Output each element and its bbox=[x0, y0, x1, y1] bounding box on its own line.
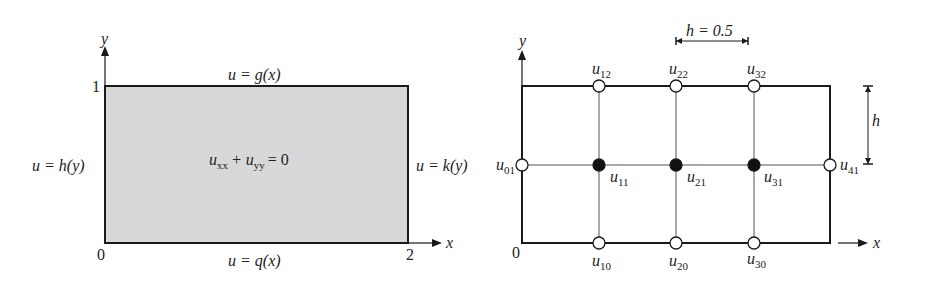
node-label-u10: u10 bbox=[592, 252, 612, 272]
right-boundary-condition: u = k(y) bbox=[416, 157, 468, 175]
vertical-spacing-label: h bbox=[872, 112, 880, 129]
diagram-canvas: y x 1 0 2 u = g(x) u = q(x) u = h(y) u =… bbox=[0, 0, 926, 281]
interior-node-u21 bbox=[670, 159, 682, 171]
y-tick-1: 1 bbox=[92, 78, 100, 95]
y-axis-label: y bbox=[517, 32, 527, 50]
boundary-node-u30 bbox=[748, 237, 760, 249]
y-axis-arrow-icon bbox=[101, 46, 109, 56]
x-axis-label: x bbox=[872, 234, 880, 251]
node-label-u30: u30 bbox=[747, 250, 767, 270]
horizontal-spacing-dimension: h = 0.5 bbox=[676, 22, 748, 45]
bottom-boundary-condition: u = q(x) bbox=[228, 252, 281, 270]
boundary-node-u41 bbox=[824, 159, 836, 171]
top-boundary-condition: u = g(x) bbox=[228, 66, 281, 84]
boundary-node-u10 bbox=[593, 237, 605, 249]
y-axis-arrow-icon bbox=[518, 50, 526, 60]
node-label-u32: u32 bbox=[747, 60, 766, 80]
node-label-u21: u21 bbox=[687, 168, 706, 188]
left-boundary-condition: u = h(y) bbox=[32, 157, 85, 175]
vertical-spacing-dimension: h bbox=[863, 86, 880, 164]
spacing-label: h = 0.5 bbox=[686, 22, 733, 39]
x-axis-arrow-icon bbox=[858, 239, 868, 247]
x-axis-arrow-icon bbox=[432, 239, 442, 247]
node-label-u41: u41 bbox=[840, 156, 859, 176]
boundary-node-u22 bbox=[670, 80, 682, 92]
node-label-u31: u31 bbox=[764, 168, 783, 188]
boundary-node-u20 bbox=[670, 237, 682, 249]
boundary-node-u01 bbox=[516, 159, 528, 171]
node-label-u01: u01 bbox=[496, 156, 515, 176]
left-diagram: y x 1 0 2 u = g(x) u = q(x) u = h(y) u =… bbox=[32, 30, 468, 270]
node-label-u20: u20 bbox=[669, 252, 689, 272]
node-label-u22: u22 bbox=[669, 60, 688, 80]
node-label-u12: u12 bbox=[592, 60, 611, 80]
boundary-node-u32 bbox=[748, 80, 760, 92]
interior-node-u31 bbox=[748, 159, 760, 171]
y-axis-label: y bbox=[99, 30, 109, 48]
interior-node-u11 bbox=[593, 159, 605, 171]
node-label-u11: u11 bbox=[610, 168, 629, 188]
origin-label: 0 bbox=[97, 246, 105, 263]
x-tick-2: 2 bbox=[406, 246, 414, 263]
x-axis-label: x bbox=[445, 234, 453, 251]
right-diagram: y x 0 h = 0.5 h bbox=[496, 22, 880, 272]
boundary-node-u12 bbox=[593, 80, 605, 92]
origin-label: 0 bbox=[512, 244, 520, 261]
